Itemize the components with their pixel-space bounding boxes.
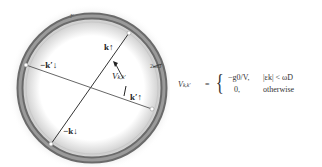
- label-interaction: Vk,k′: [112, 72, 126, 81]
- label-minus-kprime-down: −k′↓: [40, 61, 57, 70]
- shell-glow: [8, 4, 170, 167]
- label-fermi-surface: F: [70, 13, 74, 19]
- equation-case2-value: 0,: [234, 85, 240, 94]
- fermi-shell-diagram: k↑ −k′↓ k′↑ −k↓ Vk,k′ F 2ωD: [0, 0, 170, 167]
- label-minus-k-down: −k↓: [63, 127, 78, 136]
- label-kprime-up: k′↑: [130, 93, 142, 102]
- equation-case1-value: −g0/V,: [228, 73, 249, 82]
- endpoint-kprime-up: [150, 107, 154, 111]
- interaction-subscript: k,k′: [118, 74, 126, 80]
- label-shell-width: 2ωD: [150, 63, 161, 69]
- equation-lhs-subscript: k,k′: [183, 82, 190, 88]
- equation-case1-condition: |εk| < ωD: [263, 73, 293, 82]
- equation-equals: =: [205, 80, 210, 89]
- equation-case2-condition: otherwise: [263, 85, 294, 94]
- equation-lhs: Vk,k′: [178, 80, 190, 89]
- fermi-shell-graphic: [0, 0, 170, 167]
- interaction-equation: Vk,k′ = { −g0/V, |εk| < ωD 0, otherwise: [178, 71, 322, 101]
- equation-brace: {: [216, 70, 224, 94]
- endpoint-k-up: [127, 31, 131, 35]
- endpoint-minus-kprime-down: [24, 63, 28, 67]
- endpoint-minus-k-down: [49, 142, 53, 146]
- label-k-up: k↑: [104, 43, 114, 52]
